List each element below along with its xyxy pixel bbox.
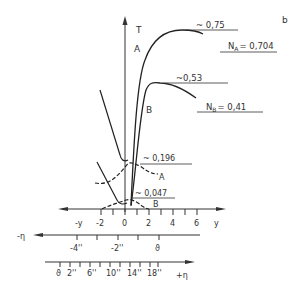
y-tick-label: 4 xyxy=(170,219,175,228)
y-pos-label: y xyxy=(214,219,219,228)
eta-pos-tick-label: 18'' xyxy=(147,269,162,278)
eta-pos-tick-label: 10'' xyxy=(106,269,121,278)
eta-neg-tick-label: -4'' xyxy=(70,244,82,253)
eta-pos-tick-label: 14'' xyxy=(127,269,142,278)
curve-b-peak-label: ~0,53 xyxy=(176,73,202,83)
y-tick-label: 6 xyxy=(194,219,199,228)
eta-neg-tick-label: -2'' xyxy=(111,244,123,253)
dashed-curve-a xyxy=(95,163,158,184)
curve-a-peak-label: ~ 0,75 xyxy=(196,20,225,30)
y-neg-label: -y xyxy=(75,219,83,228)
eta-neg-label: -η xyxy=(17,232,25,241)
eta-neg-axis xyxy=(33,233,200,240)
dashed-b-label: B xyxy=(153,200,159,209)
eta-pos-tick-label: ϑ xyxy=(56,269,61,278)
eta-neg-tick-label: ϑ xyxy=(155,244,160,253)
curve-b-label: B xyxy=(146,105,152,115)
dashed-b-peak-label: ~ 0,047 xyxy=(135,189,167,198)
curve-a-left xyxy=(100,90,128,161)
panel-label: b xyxy=(282,15,288,25)
eta-pos-label: +η xyxy=(176,271,188,280)
y-axis xyxy=(58,207,226,215)
t-axis xyxy=(123,16,128,212)
eta-pos-tick-label: 2'' xyxy=(67,269,77,278)
eta-pos-axis xyxy=(45,260,195,267)
curve-b-n-label: NB= 0,41 xyxy=(206,102,246,113)
y-tick-label: -2 xyxy=(96,219,104,228)
dashed-a-label: A xyxy=(159,173,165,182)
reference-lines xyxy=(132,30,277,198)
t-axis-label: T xyxy=(135,25,142,35)
curve-a-n-label: NA= 0,704 xyxy=(228,41,274,52)
curve-a-label: A xyxy=(134,44,141,54)
diagram-canvas: b T A B ~ 0,75 ~0,53 NA= 0,704 NB= 0,41 … xyxy=(0,0,301,298)
eta-pos-tick-label: 6'' xyxy=(87,269,97,278)
curve-b xyxy=(131,83,196,206)
y-tick-label: 2 xyxy=(146,219,151,228)
y-tick-label: 0 xyxy=(122,219,127,228)
dashed-a-peak-label: ~ 0,196 xyxy=(143,154,175,163)
